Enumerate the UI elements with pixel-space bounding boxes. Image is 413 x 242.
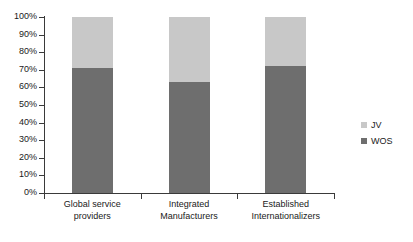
y-axis-tick-label: 90%	[0, 30, 37, 39]
y-axis-tick-label: 40%	[0, 118, 37, 127]
y-axis-tick-label-text: 40%	[1, 118, 37, 127]
y-axis-tick-label: 30%	[0, 135, 37, 144]
y-axis-tick-label: 100%	[0, 12, 37, 21]
bar-segment-wos	[265, 66, 306, 193]
bar-segment-wos	[72, 68, 113, 193]
bar-segment-jv	[169, 17, 210, 82]
bar-column	[169, 17, 210, 193]
y-axis-tick-label-text: 80%	[1, 47, 37, 56]
chart-legend: JVWOS	[361, 117, 411, 149]
legend-label: WOS	[371, 137, 393, 146]
legend-item-wos[interactable]: WOS	[361, 133, 411, 149]
y-axis-tick-label: 10%	[0, 170, 37, 179]
stacked-bar-chart: 0%10%20%30%40%50%60%70%80%90%100% Global…	[0, 0, 413, 242]
y-axis-tick-label: 80%	[0, 47, 37, 56]
legend-item-jv[interactable]: JV	[361, 117, 411, 133]
y-axis-tick-label: 0%	[0, 188, 37, 197]
y-axis-tick-label: 70%	[0, 65, 37, 74]
y-axis-tick-label: 20%	[0, 153, 37, 162]
legend-swatch-icon	[361, 122, 367, 128]
y-axis-tick-label: 60%	[0, 82, 37, 91]
y-axis-tick-label: 50%	[0, 100, 37, 109]
y-axis-tick-label-text: 10%	[1, 170, 37, 179]
category-label: EstablishedInternationalizers	[226, 199, 346, 222]
y-axis-tick-label-text: 30%	[1, 135, 37, 144]
y-axis-tick-label-text: 90%	[1, 30, 37, 39]
bar-segment-wos	[169, 82, 210, 193]
y-axis-tick-label-text: 60%	[1, 82, 37, 91]
category-label-line: Internationalizers	[226, 211, 346, 223]
y-axis-tick-label-text: 20%	[1, 153, 37, 162]
legend-label: JV	[371, 121, 382, 130]
bar-segment-jv	[72, 17, 113, 68]
bar-segment-jv	[265, 17, 306, 66]
plot-area	[44, 17, 334, 193]
y-axis-tick-label-text: 70%	[1, 65, 37, 74]
y-axis-tick-label-text: 100%	[1, 12, 37, 21]
legend-swatch-icon	[361, 138, 367, 144]
bar-column	[72, 17, 113, 193]
category-label-line: Established	[226, 199, 346, 211]
y-axis-tick-label-text: 0%	[1, 188, 37, 197]
bar-column	[265, 17, 306, 193]
y-axis-tick-label-text: 50%	[1, 100, 37, 109]
x-axis-line	[44, 193, 335, 194]
